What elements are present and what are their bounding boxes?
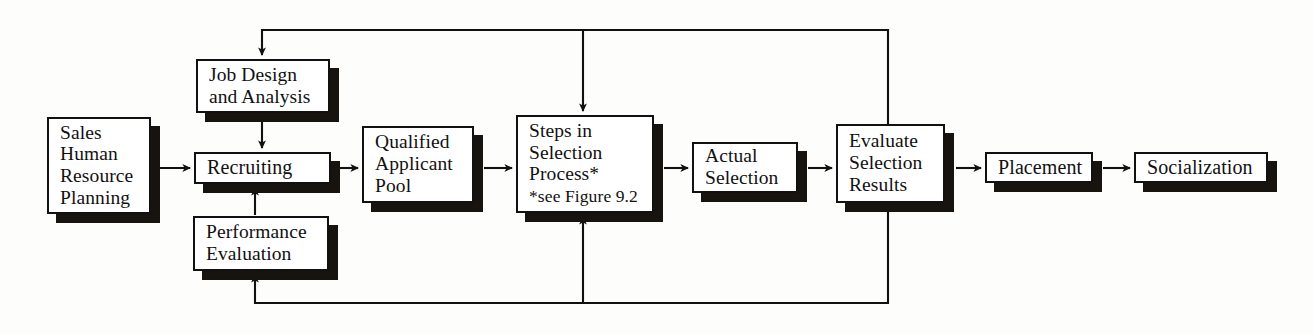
node-job-design-and-analysis[interactable]: Job Design and Analysis (196, 59, 330, 113)
node-line: Steps in (529, 120, 643, 142)
node-line: and Analysis (209, 86, 319, 108)
feedback-bottom-to-performance-evaluation (255, 203, 888, 303)
node-steps-in-selection-process[interactable]: Steps in Selection Process* *see Figure … (516, 115, 654, 213)
node-line: Performance (206, 221, 318, 243)
node-line: Results (849, 174, 934, 196)
node-line: Human (60, 143, 140, 165)
node-qualified-applicant-pool[interactable]: Qualified Applicant Pool (362, 126, 474, 203)
node-sales-human-resource-planning[interactable]: Sales Human Resource Planning (47, 117, 151, 214)
node-line: Sales (60, 122, 140, 144)
node-line: Socialization (1147, 156, 1257, 178)
node-evaluate-selection-results[interactable]: Evaluate Selection Results (836, 124, 945, 203)
node-line: Evaluate (849, 130, 934, 152)
node-line: Planning (60, 187, 140, 209)
node-line: Resource (60, 165, 140, 187)
node-footnote: *see Figure 9.2 (529, 185, 643, 207)
node-line: Pool (375, 175, 463, 197)
node-line: Actual (705, 145, 787, 167)
node-line: Process* (529, 163, 643, 185)
node-line: Job Design (209, 64, 319, 86)
node-line: Evaluation (206, 243, 318, 265)
node-performance-evaluation[interactable]: Performance Evaluation (193, 216, 329, 271)
node-line: Applicant (375, 153, 463, 175)
node-placement[interactable]: Placement (985, 152, 1093, 183)
node-line: Qualified (375, 131, 463, 153)
node-actual-selection[interactable]: Actual Selection (692, 142, 798, 193)
node-line: Selection (529, 142, 643, 164)
node-line: Selection (849, 152, 934, 174)
node-line: Selection (705, 167, 787, 189)
node-recruiting[interactable]: Recruiting (194, 152, 331, 184)
node-line: Recruiting (207, 156, 320, 178)
node-line: Placement (998, 156, 1082, 178)
feedback-top-to-job-design (262, 30, 888, 124)
hr-selection-process-flowchart: Sales Human Resource Planning Job Design… (0, 0, 1314, 335)
node-socialization[interactable]: Socialization (1134, 152, 1268, 183)
